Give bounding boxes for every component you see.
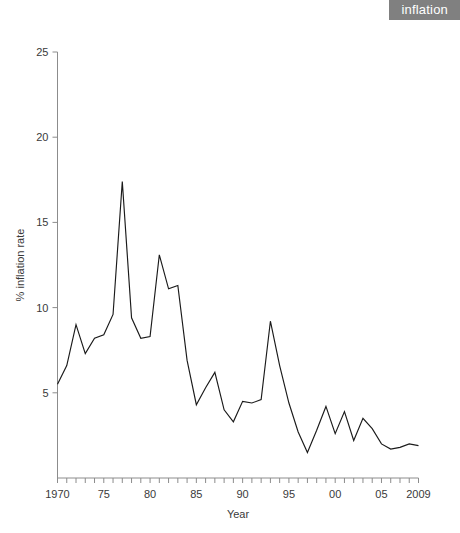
x-tick-label: 05: [375, 488, 387, 500]
x-axis: 1970758085909500052009: [45, 478, 430, 500]
x-tick-label: 1970: [45, 488, 69, 500]
inflation-chart: 510152025 1970758085909500052009 Year% i…: [0, 0, 460, 533]
y-tick-label: 25: [36, 46, 48, 58]
inflation-badge[interactable]: inflation: [389, 0, 460, 20]
x-tick-label: 95: [283, 488, 295, 500]
x-tick-label: 2009: [406, 488, 430, 500]
y-tick-label: 15: [36, 216, 48, 228]
y-axis-title: % inflation rate: [14, 229, 26, 302]
x-tick-label: 90: [237, 488, 249, 500]
y-tick-label: 5: [42, 387, 48, 399]
y-tick-label: 20: [36, 131, 48, 143]
x-tick-label: 00: [329, 488, 341, 500]
x-tick-label: 80: [144, 488, 156, 500]
x-axis-title: Year: [227, 508, 250, 520]
inflation-line: [58, 182, 419, 453]
x-tick-label: 75: [98, 488, 110, 500]
x-tick-label: 85: [190, 488, 202, 500]
y-axis: 510152025: [36, 46, 57, 478]
inflation-series: [58, 182, 419, 453]
y-tick-label: 10: [36, 302, 48, 314]
chart-canvas: 510152025 1970758085909500052009 Year% i…: [0, 0, 460, 533]
